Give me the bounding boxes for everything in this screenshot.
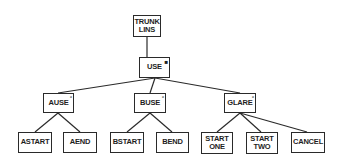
node-astart: ASTART <box>18 132 52 153</box>
node-bend: BEND <box>156 132 189 153</box>
node-bstart: BSTART <box>110 132 144 153</box>
node-start-two: START TWO <box>246 132 278 154</box>
node-start-one: START ONE <box>201 132 233 154</box>
node-label: START ONE <box>205 135 228 152</box>
node-use: USE ■ <box>139 57 170 78</box>
node-trunk-lins: TRUNK LINS <box>133 15 161 37</box>
node-label: BSTART <box>113 138 142 147</box>
node-cancel: CANCEL <box>291 132 325 153</box>
node-label: START TWO <box>250 135 273 152</box>
node-buse: BUSE ° <box>134 93 166 113</box>
node-label: BEND <box>162 138 182 147</box>
node-ause: AUSE ° <box>43 93 74 113</box>
circle-marker-icon: ° <box>252 95 254 101</box>
node-label: TRUNK LINS <box>134 18 159 35</box>
node-label: CANCEL <box>293 138 323 147</box>
node-label: BUSE <box>140 99 160 108</box>
node-label: USE <box>147 63 162 72</box>
node-label: AUSE <box>48 99 68 108</box>
circle-marker-icon: ° <box>162 95 164 101</box>
node-glare: GLARE ° <box>224 93 256 113</box>
circle-marker-icon: ° <box>70 95 72 101</box>
node-aend: AEND <box>63 132 97 153</box>
filled-square-marker-icon: ■ <box>165 59 168 65</box>
node-label: ASTART <box>21 138 50 147</box>
node-label: GLARE <box>227 99 252 108</box>
node-label: AEND <box>70 138 90 147</box>
